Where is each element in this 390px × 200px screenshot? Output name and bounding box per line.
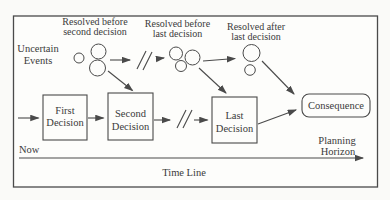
first-decision-label-line2: Decision <box>46 117 84 128</box>
second-decision-label-line2: Decision <box>112 121 150 132</box>
second-decision-label-line1: Second <box>115 108 147 119</box>
uncertainty-circle <box>91 44 106 59</box>
uncertainty-circle <box>243 45 260 62</box>
decision-timeline-figure: Resolved before second decision Resolved… <box>0 0 390 200</box>
heading-resolved-after-last-line2: last decision <box>231 31 281 42</box>
uncertainty-circle <box>90 60 106 76</box>
last-decision-label-line1: Last <box>225 110 243 121</box>
timeline-planning-horizon-line1: Planning <box>318 135 356 146</box>
timeline-axis-title: Time Line <box>162 167 206 178</box>
consequence-label: Consequence <box>308 100 364 111</box>
last-decision-label-line2: Decision <box>216 123 254 134</box>
uncertainty-circle <box>74 53 84 63</box>
timeline-planning-horizon-line2: Horizon <box>321 146 356 157</box>
uncertain-events-label-line2: Events <box>24 55 53 66</box>
timeline-now-label: Now <box>19 144 40 155</box>
first-decision-label-line1: First <box>55 105 74 116</box>
uncertain-events-label-line1: Uncertain <box>17 43 59 54</box>
uncertainty-circle <box>176 61 187 72</box>
uncertainty-circle <box>185 50 200 65</box>
uncertainty-circle <box>245 65 256 76</box>
heading-resolved-before-last-line2: last decision <box>153 28 203 39</box>
decision-timeline-diagram: Resolved before second decision Resolved… <box>0 0 390 200</box>
heading-resolved-before-second-line2: second decision <box>63 26 127 37</box>
uncertainty-circle <box>170 47 183 60</box>
